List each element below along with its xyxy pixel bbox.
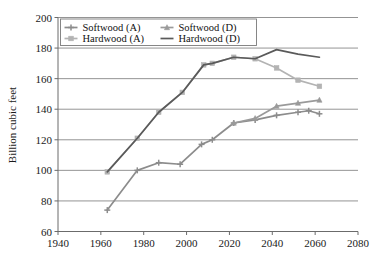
x-tick-label: 2060 <box>304 237 327 249</box>
data-point-marker-square <box>274 66 279 71</box>
series-path <box>107 111 319 210</box>
data-point-marker-square <box>317 84 322 89</box>
y-tick-label: 140 <box>36 103 53 115</box>
data-point-marker-plus <box>156 160 162 166</box>
x-tick-label: 1960 <box>90 237 113 249</box>
x-axis-tick-labels: 19401960198020002020204020602080 <box>47 237 370 249</box>
series-hardwood-d <box>107 50 319 172</box>
x-tick-label: 1980 <box>133 237 156 249</box>
y-tick-label: 100 <box>36 164 53 176</box>
x-tick-label: 2080 <box>347 237 370 249</box>
y-axis-title-text: Billion cubic feet <box>6 87 18 163</box>
x-tick-label: 2020 <box>218 237 241 249</box>
y-axis-tick-labels: 6080100120140160180200 <box>36 12 53 238</box>
series-path <box>107 50 319 172</box>
series-hardwood-a <box>105 55 322 174</box>
legend-label: Hardwood (A) <box>83 33 145 45</box>
data-point-marker-plus <box>274 112 280 118</box>
series-lines <box>104 50 322 214</box>
x-tick-label: 2000 <box>176 237 199 249</box>
data-point-marker-square <box>296 78 301 83</box>
axes <box>55 18 359 236</box>
chart-container: 6080100120140160180200 19401960198020002… <box>0 0 375 266</box>
x-tick-label: 1940 <box>47 237 70 249</box>
y-tick-label: 160 <box>36 73 53 85</box>
chart-legend: Softwood (A)Softwood (D)Hardwood (A)Hard… <box>61 19 257 46</box>
series-softwood-a <box>104 108 322 213</box>
y-tick-label: 180 <box>36 42 53 54</box>
line-chart: 6080100120140160180200 19401960198020002… <box>0 0 375 266</box>
x-tick-label: 2040 <box>261 237 284 249</box>
data-point-marker-square <box>69 36 74 41</box>
data-point-marker-plus <box>316 111 322 117</box>
y-tick-label: 120 <box>36 134 53 146</box>
data-point-marker-plus <box>306 108 312 114</box>
y-axis-title: Billion cubic feet <box>6 87 18 163</box>
data-point-marker-plus <box>295 109 301 115</box>
y-tick-label: 80 <box>41 195 53 207</box>
legend-label: Hardwood (D) <box>179 33 241 45</box>
y-tick-label: 200 <box>36 12 53 24</box>
